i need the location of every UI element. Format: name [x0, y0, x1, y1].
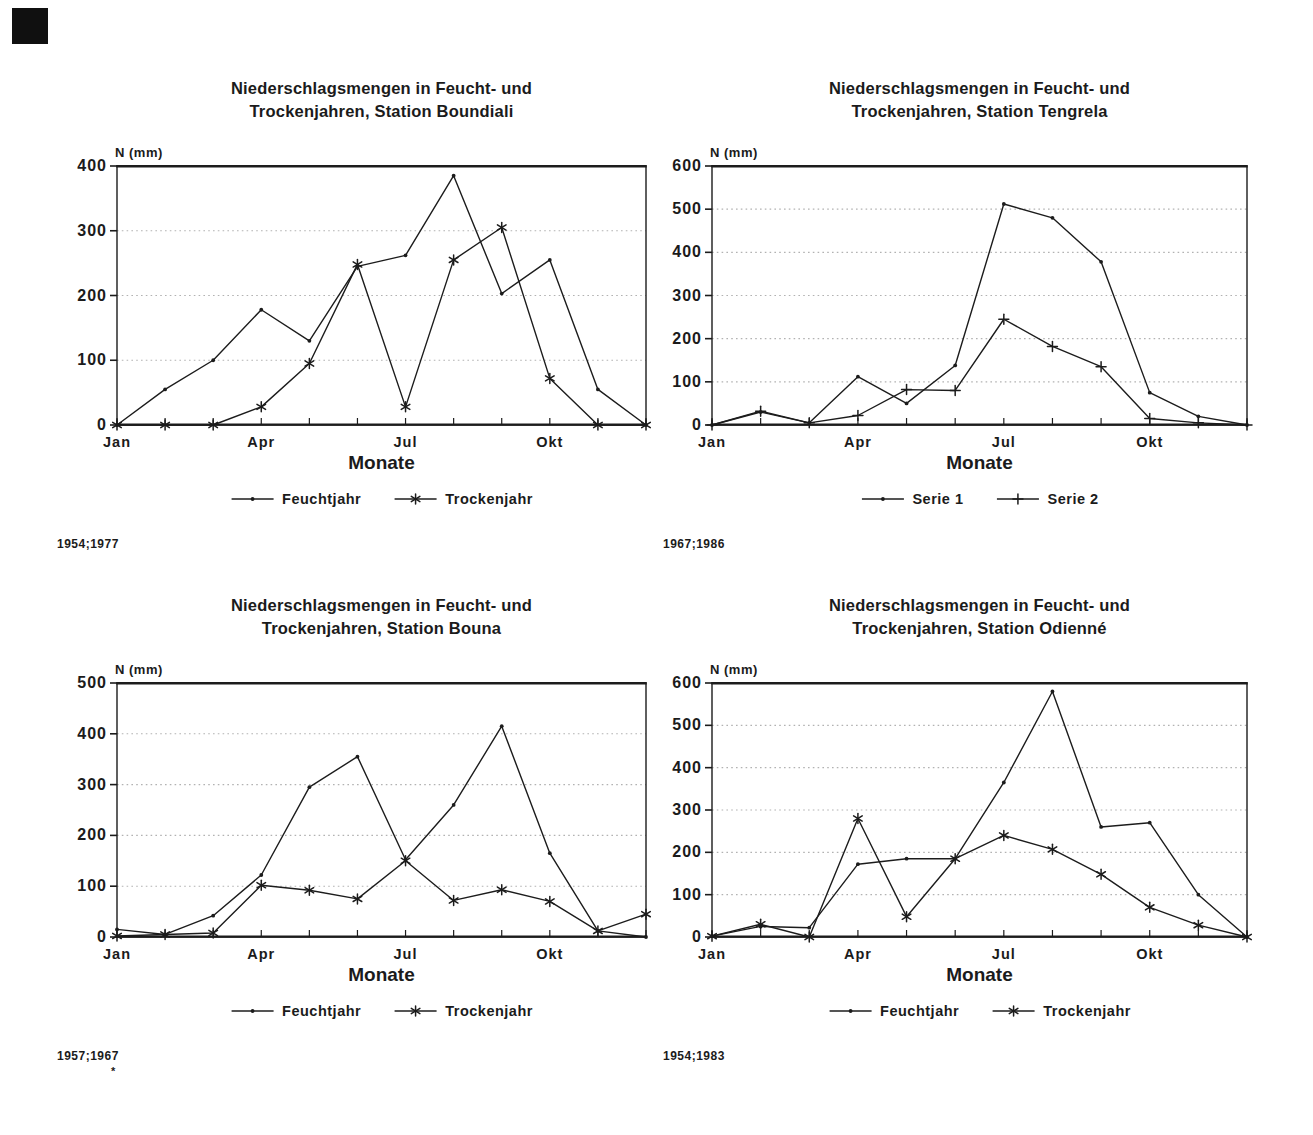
- x-tick-label: Apr: [229, 434, 293, 450]
- legend-label: Feuchtjahr: [880, 1003, 959, 1019]
- x-tick-label: Okt: [1118, 946, 1182, 962]
- y-tick-label: 500: [648, 199, 702, 219]
- legend-marker-plus-icon: [996, 492, 1040, 506]
- y-tick-label: 300: [53, 221, 107, 241]
- y-tick-label: 400: [648, 758, 702, 778]
- x-tick-label: Jan: [680, 946, 744, 962]
- y-tick-label: 300: [648, 800, 702, 820]
- x-axis-label: Monate: [348, 452, 415, 474]
- chart-title: Niederschlagsmengen in Feucht- und Trock…: [122, 77, 642, 123]
- chart-title-line: Trockenjahren, Station Odienné: [720, 617, 1240, 640]
- y-tick-label: 100: [53, 876, 107, 896]
- y-tick-label: 0: [53, 415, 107, 435]
- legend-marker-asterisk-icon: [393, 492, 437, 506]
- legend-item: Trockenjahr: [393, 491, 533, 507]
- legend-label: Trockenjahr: [445, 1003, 533, 1019]
- chart-odienne: Niederschlagsmengen in Feucht- und Trock…: [712, 683, 1247, 937]
- x-tick-label: Jul: [972, 946, 1036, 962]
- y-tick-label: 0: [648, 415, 702, 435]
- legend: FeuchtjahrTrockenjahr: [230, 491, 533, 507]
- x-tick-label: Okt: [518, 946, 582, 962]
- y-tick-label: 200: [53, 286, 107, 306]
- y-tick-label: 100: [648, 885, 702, 905]
- x-tick-label: Jan: [680, 434, 744, 450]
- y-tick-label: 300: [648, 286, 702, 306]
- legend-marker-dot-icon: [860, 492, 904, 506]
- x-tick-label: Jul: [374, 434, 438, 450]
- x-tick-label: Okt: [518, 434, 582, 450]
- chart-bouna: Niederschlagsmengen in Feucht- und Trock…: [117, 683, 646, 937]
- chart-boundiali: Niederschlagsmengen in Feucht- und Trock…: [117, 166, 646, 425]
- x-tick-label: Apr: [826, 946, 890, 962]
- x-tick-label: Jan: [85, 946, 149, 962]
- plot-area: [107, 156, 656, 435]
- legend: FeuchtjahrTrockenjahr: [828, 1003, 1131, 1019]
- y-tick-label: 600: [648, 673, 702, 693]
- legend-marker-asterisk-icon: [393, 1004, 437, 1018]
- y-tick-label: 600: [648, 156, 702, 176]
- caption-years: 1954;1977: [57, 537, 119, 551]
- chart-title-line: Niederschlagsmengen in Feucht- und: [122, 594, 642, 617]
- legend: FeuchtjahrTrockenjahr: [230, 1003, 533, 1019]
- y-tick-label: 0: [648, 927, 702, 947]
- y-tick-label: 0: [53, 927, 107, 947]
- y-tick-label: 400: [53, 156, 107, 176]
- x-axis-label: Monate: [946, 452, 1013, 474]
- y-tick-label: 500: [53, 673, 107, 693]
- legend-item: Feuchtjahr: [828, 1003, 959, 1019]
- y-tick-label: 300: [53, 775, 107, 795]
- plot-area: [702, 673, 1257, 947]
- x-axis-label: Monate: [946, 964, 1013, 986]
- y-tick-label: 500: [648, 715, 702, 735]
- y-tick-label: 100: [53, 350, 107, 370]
- chart-title-line: Trockenjahren, Station Boundiali: [122, 100, 642, 123]
- y-tick-label: 400: [648, 242, 702, 262]
- legend-item: Feuchtjahr: [230, 491, 361, 507]
- chart-title: Niederschlagsmengen in Feucht- und Trock…: [720, 77, 1240, 123]
- y-tick-label: 200: [648, 842, 702, 862]
- legend-item: Serie 2: [996, 491, 1099, 507]
- x-tick-label: Jul: [972, 434, 1036, 450]
- caption-years: 1957;1967: [57, 1049, 119, 1063]
- x-tick-label: Okt: [1118, 434, 1182, 450]
- legend-marker-dot-icon: [828, 1004, 872, 1018]
- legend-item: Serie 1: [860, 491, 963, 507]
- legend-marker-asterisk-icon: [991, 1004, 1035, 1018]
- chart-title: Niederschlagsmengen in Feucht- und Trock…: [720, 594, 1240, 640]
- legend-label: Trockenjahr: [1043, 1003, 1131, 1019]
- chart-tengrela: Niederschlagsmengen in Feucht- und Trock…: [712, 166, 1247, 425]
- chart-title-line: Niederschlagsmengen in Feucht- und: [720, 594, 1240, 617]
- legend-label: Feuchtjahr: [282, 1003, 361, 1019]
- legend-label: Serie 1: [912, 491, 963, 507]
- x-axis-label: Monate: [348, 964, 415, 986]
- legend-item: Feuchtjahr: [230, 1003, 361, 1019]
- x-tick-label: Apr: [229, 946, 293, 962]
- x-tick-label: Jan: [85, 434, 149, 450]
- y-tick-label: 200: [648, 329, 702, 349]
- caption-years: 1967;1986: [663, 537, 725, 551]
- plot-area: [702, 156, 1257, 435]
- legend: Serie 1Serie 2: [860, 491, 1098, 507]
- y-tick-label: 400: [53, 724, 107, 744]
- legend-label: Feuchtjahr: [282, 491, 361, 507]
- chart-title: Niederschlagsmengen in Feucht- und Trock…: [122, 594, 642, 640]
- caption-years: 1954;1983: [663, 1049, 725, 1063]
- y-tick-label: 100: [648, 372, 702, 392]
- legend-item: Trockenjahr: [991, 1003, 1131, 1019]
- plot-area: [107, 673, 656, 947]
- legend-item: Trockenjahr: [393, 1003, 533, 1019]
- caption-footnote: *: [111, 1065, 115, 1077]
- chart-title-line: Niederschlagsmengen in Feucht- und: [720, 77, 1240, 100]
- y-tick-label: 200: [53, 825, 107, 845]
- scanned-document-page: { "page": { "bg": "#ffffff", "ink": "#1c…: [0, 0, 1313, 1135]
- chart-title-line: Trockenjahren, Station Bouna: [122, 617, 642, 640]
- x-tick-label: Apr: [826, 434, 890, 450]
- legend-marker-dot-icon: [230, 492, 274, 506]
- legend-label: Serie 2: [1048, 491, 1099, 507]
- scan-artifact-square: [12, 8, 48, 44]
- chart-title-line: Niederschlagsmengen in Feucht- und: [122, 77, 642, 100]
- x-tick-label: Jul: [374, 946, 438, 962]
- legend-label: Trockenjahr: [445, 491, 533, 507]
- legend-marker-dot-icon: [230, 1004, 274, 1018]
- chart-title-line: Trockenjahren, Station Tengrela: [720, 100, 1240, 123]
